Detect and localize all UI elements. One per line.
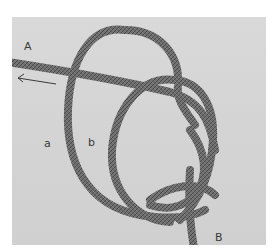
arrow-left-icon [18, 74, 56, 84]
rope-knot-illustration [12, 17, 266, 245]
label-end-b: B [215, 232, 223, 243]
label-loop-b: b [88, 137, 95, 148]
label-end-a: A [24, 41, 32, 52]
knot-photo [12, 17, 266, 245]
label-loop-a: a [44, 138, 51, 149]
